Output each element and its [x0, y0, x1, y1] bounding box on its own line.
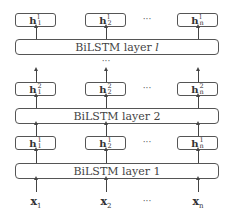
arrow-up [106, 27, 107, 39]
input-sub: 2 [107, 202, 111, 210]
arrow-up [198, 70, 199, 82]
input-sub: 1 [37, 202, 41, 210]
layer-label: BiLSTM layer [75, 41, 155, 54]
arrow-up [106, 150, 107, 163]
output-sub: n [200, 143, 204, 149]
output-sub: 2 [108, 143, 112, 149]
output-sub: 1 [38, 20, 42, 26]
layer-label: BiLSTM layer [73, 165, 153, 178]
output-sub: n [200, 89, 204, 95]
layer-index: l [155, 41, 159, 54]
input-x-1: x1 [21, 195, 51, 210]
bilstm-layer-2: BiLSTM layer 2 [15, 108, 219, 124]
layer-index: 2 [154, 110, 161, 123]
arrow-up [36, 124, 37, 136]
ellipsis: ··· [137, 83, 157, 93]
input-x-n: xn [183, 195, 213, 210]
output-sub: 2 [108, 89, 112, 95]
arrow-up [198, 179, 199, 192]
arrow-up [36, 27, 37, 39]
layer-index: 1 [154, 165, 161, 178]
arrow-up [106, 179, 107, 192]
layer-label: BiLSTM layer [73, 110, 153, 123]
input-x-2: x2 [91, 195, 121, 210]
arrow-up [106, 124, 107, 136]
ellipsis: ··· [137, 196, 157, 206]
output-sub: 1 [38, 143, 42, 149]
ellipsis: ··· [137, 137, 157, 147]
ellipsis: ··· [137, 14, 157, 24]
arrow-up [198, 124, 199, 136]
input-sub: n [199, 202, 204, 210]
arrow-up [198, 27, 199, 39]
arrow-up [198, 96, 199, 108]
bilstm-layer-1: BiLSTM layer 1 [15, 163, 219, 179]
arrow-up [36, 70, 37, 82]
output-sub: 2 [108, 20, 112, 26]
vertical-ellipsis: ··· [96, 56, 116, 66]
output-sub: n [200, 20, 204, 26]
output-sub: 1 [38, 89, 42, 95]
arrow-up [36, 150, 37, 163]
arrow-up [106, 70, 107, 82]
arrow-up [106, 96, 107, 108]
arrow-up [36, 179, 37, 192]
bilstm-layer-l: BiLSTM layer l [15, 39, 219, 55]
arrow-up [36, 96, 37, 108]
arrow-up [198, 150, 199, 163]
